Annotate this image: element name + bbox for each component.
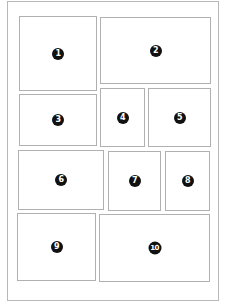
panel-5: 5 <box>148 88 211 147</box>
panel-9: 9 <box>17 213 96 281</box>
panel-10: 10 <box>99 214 210 282</box>
panel-3: 3 <box>19 94 97 146</box>
panel-1: 1 <box>19 16 97 91</box>
panel-2: 2 <box>100 17 211 84</box>
panel-number-badge: 4 <box>117 112 129 124</box>
panel-number-badge: 5 <box>174 112 186 124</box>
panel-number-badge: 8 <box>182 175 194 187</box>
panel-number-badge: 10 <box>148 242 161 255</box>
panel-7: 7 <box>108 151 161 211</box>
panel-number-badge: 6 <box>55 174 67 186</box>
panel-4: 4 <box>100 88 145 147</box>
panel-number-badge: 3 <box>52 114 64 126</box>
panel-number-badge: 7 <box>129 175 141 187</box>
panel-number-badge: 2 <box>150 45 162 57</box>
panel-number-badge: 9 <box>51 241 63 253</box>
panel-number-badge: 1 <box>52 48 64 60</box>
panel-8: 8 <box>165 151 210 211</box>
panel-6: 6 <box>18 150 104 210</box>
